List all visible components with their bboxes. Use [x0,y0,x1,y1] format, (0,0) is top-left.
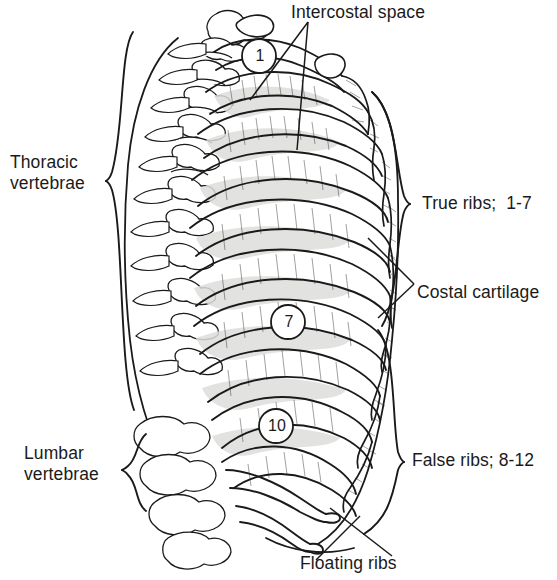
label-costal-cartilage: Costal cartilage [417,282,539,303]
label-false-ribs: False ribs; 8-12 [412,450,534,471]
label-lumbar-vertebrae-line2: vertebrae [24,464,99,485]
cartilage-hatching [346,80,398,494]
label-thoracic-vertebrae-line2: vertebrae [10,173,85,194]
label-floating-ribs: Floating ribs [300,553,397,574]
rib-marker-1-label: 1 [249,45,271,66]
leader-intercostal-b [297,22,308,150]
brace-thoracic-vertebrae [106,32,134,410]
brace-floating-ribs [266,538,354,552]
rib-marker-10-label: 10 [264,415,290,436]
label-lumbar-vertebrae-line1: Lumbar [24,443,84,464]
label-true-ribs: True ribs; 1-7 [422,193,532,214]
rib-marker-7-label: 7 [278,311,300,332]
rib-shading [194,86,352,455]
label-thoracic-vertebrae-line1: Thoracic [10,152,78,173]
rib-cage-figure: Intercostal space Thoracic vertebrae Lum… [0,0,557,580]
label-intercostal-space: Intercostal space [291,2,425,23]
costal-cartilage [342,76,393,512]
